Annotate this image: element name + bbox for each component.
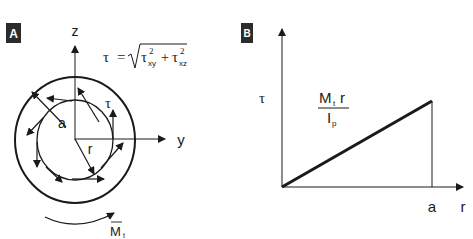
diagram-canvas: A z y a r τ τ = τ (0, 0, 473, 239)
fraction-denominator-sub: p (332, 119, 337, 128)
stress-fraction: M t r I p (318, 89, 349, 128)
torque-arrow (45, 213, 114, 224)
panel-b: B τ r a M t r I p (241, 23, 466, 215)
torque-subscript: t (123, 232, 125, 239)
fraction-numerator-m: M (319, 89, 332, 106)
formula-term2: τ (172, 49, 178, 65)
fraction-denominator-i: I (327, 109, 331, 126)
formula-lhs: τ (103, 49, 109, 65)
tau-axis-label: τ (259, 90, 265, 106)
formula-term1-sup: 2 (149, 46, 154, 56)
fraction-numerator-sub: t (333, 99, 336, 108)
y-axis-label: y (177, 131, 185, 148)
formula-term2-sub: xz (179, 59, 187, 68)
badge-label-b: B (243, 28, 250, 39)
formula-plus: + (161, 50, 169, 65)
inner-radius-label: r (88, 141, 93, 157)
formula-term1-sub: xy (148, 59, 156, 68)
fraction-numerator-r: r (340, 89, 345, 106)
formula-equals: = (117, 49, 125, 65)
panel-a-badge: A (6, 23, 21, 43)
outer-radius-label: a (58, 115, 66, 131)
panel-a: A z y a r τ τ = τ (6, 23, 187, 239)
shear-formula: τ = τ 2 xy + τ 2 xz (103, 44, 187, 68)
formula-term1: τ (141, 49, 147, 65)
z-axis-label: z (72, 23, 79, 39)
stress-distribution-line (282, 101, 432, 187)
torque-label: M t (110, 222, 125, 239)
shear-stress-label: τ (105, 95, 111, 111)
badge-label-a: A (9, 27, 18, 41)
a-tick-label: a (428, 198, 437, 215)
r-axis-label: r (461, 198, 466, 215)
formula-term2-sup: 2 (180, 46, 185, 56)
torque-symbol: M (110, 224, 121, 239)
panel-b-badge: B (241, 23, 253, 43)
